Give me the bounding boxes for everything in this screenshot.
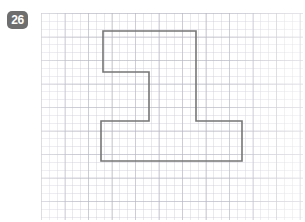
worksheet-canvas: 26 xyxy=(0,0,305,222)
grid-fade-overlay xyxy=(41,13,303,220)
question-number-badge: 26 xyxy=(7,11,28,29)
graph-paper-grid xyxy=(41,13,303,220)
